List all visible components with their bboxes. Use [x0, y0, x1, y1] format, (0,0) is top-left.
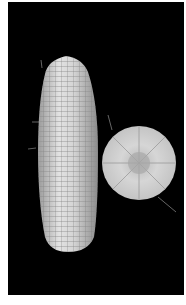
- corn-photo: [8, 2, 184, 295]
- corn-cross-section: [102, 115, 176, 212]
- corn-ear: [28, 56, 98, 252]
- corn-illustration: [8, 2, 184, 295]
